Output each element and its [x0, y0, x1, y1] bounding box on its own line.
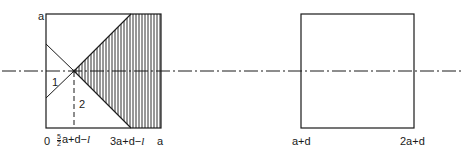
region-label-1: 1: [52, 76, 58, 88]
region-label-2: 2: [79, 98, 85, 110]
diagonal-lower-left: [46, 71, 74, 98]
fraction-five-halves: 52: [57, 134, 61, 147]
diagonal-upper-left: [46, 44, 74, 71]
x-label-origin: 0: [44, 135, 50, 147]
diagonal-upper-right: [74, 14, 131, 71]
hatched-region: [76, 10, 160, 130]
x-label-crossing: 52a+d−l: [57, 133, 90, 147]
x-label-2a-plus-d: 2a+d: [400, 135, 425, 147]
y-axis-label-a: a: [38, 10, 44, 22]
x-label-right-a: a: [157, 135, 163, 147]
x-label-slant-end: 3a+d−l: [110, 135, 144, 147]
x-label-a-plus-d: a+d: [292, 135, 311, 147]
